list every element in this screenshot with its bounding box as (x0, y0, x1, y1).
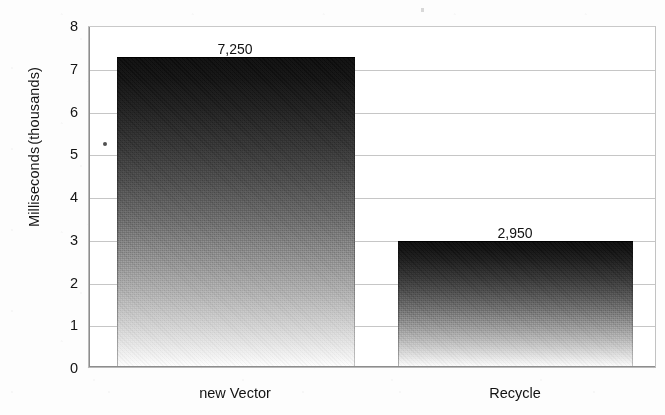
y-tick-label-5: 5 (48, 147, 78, 162)
y-tick-label-0: 0 (48, 361, 78, 376)
y-tick-label-2: 2 (48, 275, 78, 290)
bar-chart: Milliseconds (thousands) 8 7 6 5 4 3 2 1… (0, 0, 665, 415)
bar-new-vector[interactable] (117, 57, 355, 367)
bar-top-edge (398, 241, 633, 242)
y-tick-label-8: 8 (48, 19, 78, 34)
value-label-recycle: 2,950 (497, 226, 532, 240)
scan-artifact-speck (103, 142, 107, 146)
y-axis-title-line-2: (thousands) (26, 67, 43, 145)
bar-left-edge (117, 57, 118, 367)
y-tick-label-1: 1 (48, 318, 78, 333)
x-axis-line (89, 366, 655, 367)
bar-right-edge (632, 241, 633, 367)
bar-recycle[interactable] (398, 241, 633, 367)
bar-top-edge (117, 57, 355, 58)
y-tick-label-3: 3 (48, 233, 78, 248)
y-tick-label-7: 7 (48, 62, 78, 77)
scan-artifact-speck-secondary (421, 8, 424, 12)
category-label-new-vector: new Vector (199, 386, 271, 401)
bar-fill (117, 57, 355, 367)
y-tick-label-4: 4 (48, 190, 78, 205)
bar-left-edge (398, 241, 399, 367)
y-tick-label-6: 6 (48, 104, 78, 119)
y-axis-tick-labels: 8 7 6 5 4 3 2 1 0 (46, 0, 78, 415)
bar-fill (398, 241, 633, 367)
plot-area (88, 26, 656, 368)
y-axis-title-line-1: Milliseconds (26, 147, 43, 227)
bar-right-edge (354, 57, 355, 367)
category-label-recycle: Recycle (489, 386, 541, 401)
y-axis-line (89, 27, 90, 367)
value-label-new-vector: 7,250 (217, 42, 252, 56)
